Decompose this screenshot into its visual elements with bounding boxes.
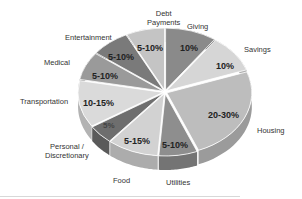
label-personal: Personal /Discretionary — [45, 142, 89, 160]
pct-medical: 5-10% — [92, 71, 118, 81]
label-food: Food — [113, 176, 130, 185]
pct-food: 5-15% — [124, 136, 150, 146]
pct-giving: 10% — [180, 43, 198, 53]
pct-housing: 20-30% — [208, 110, 239, 120]
label-debt-line1: Debt — [156, 9, 172, 18]
label-medical: Medical — [44, 58, 70, 67]
pct-entertainment: 5-10% — [108, 52, 134, 62]
label-transportation: Transportation — [20, 97, 68, 106]
pct-debt: 5-10% — [137, 43, 163, 53]
pct-personal: 5% — [103, 121, 115, 130]
label-savings: Savings — [244, 45, 271, 54]
label-housing: Housing — [257, 126, 285, 135]
label-debt-payments: DebtPayments — [147, 9, 180, 27]
label-giving: Giving — [187, 22, 208, 31]
divider — [0, 196, 240, 197]
label-utilities: Utilities — [166, 178, 190, 187]
label-entertainment: Entertainment — [65, 33, 112, 42]
pct-savings: 10% — [216, 61, 234, 71]
label-personal-line2: Discretionary — [45, 151, 89, 160]
pct-utilities: 5-10% — [162, 140, 188, 150]
label-debt-line2: Payments — [147, 18, 180, 27]
pct-transportation: 10-15% — [83, 98, 114, 108]
label-personal-line1: Personal / — [50, 142, 84, 151]
